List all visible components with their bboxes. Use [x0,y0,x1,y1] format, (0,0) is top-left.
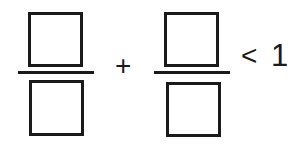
less-than-symbol: < [241,42,257,70]
plus-operator: + [115,52,131,80]
left-fraction-bar [18,71,94,74]
left-denominator-box[interactable] [29,80,84,136]
left-numerator-box[interactable] [28,12,83,67]
right-numerator-box[interactable] [164,12,219,67]
right-denominator-box[interactable] [166,82,221,137]
right-fraction-bar [154,71,230,74]
rhs-value: 1 [271,40,288,71]
